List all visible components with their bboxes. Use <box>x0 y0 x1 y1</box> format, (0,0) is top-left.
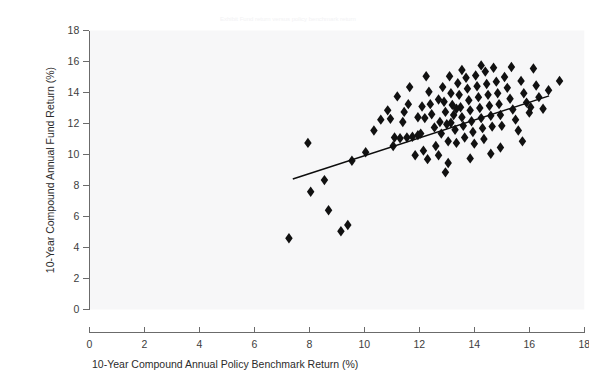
y-axis-title: 10-Year Compound Annual Fund Return (%) <box>44 67 56 273</box>
x-tick-label: 4 <box>196 338 202 350</box>
y-tick-label: 10 <box>68 148 80 160</box>
x-tick-label: 6 <box>251 338 257 350</box>
y-tick-label: 6 <box>73 210 79 222</box>
y-tick-label: 16 <box>68 55 80 67</box>
x-tick-label: 12 <box>413 338 425 350</box>
y-tick-label: 4 <box>73 241 79 253</box>
x-tick-label: 14 <box>468 338 480 350</box>
y-tick-label: 18 <box>68 24 80 36</box>
figure-caption-faint: Exhibit Fund return versus policy benchm… <box>220 16 356 22</box>
y-tick-label: 12 <box>68 117 80 129</box>
x-tick-label: 18 <box>578 338 589 350</box>
x-tick-label: 16 <box>523 338 535 350</box>
x-axis-title: 10-Year Compound Annual Policy Benchmark… <box>92 358 358 370</box>
chart-canvas: Exhibit Fund return versus policy benchm… <box>40 16 589 370</box>
y-tick-label: 8 <box>73 179 79 191</box>
x-tick-label: 2 <box>141 338 147 350</box>
x-tick-label: 8 <box>306 338 312 350</box>
y-tick-label: 14 <box>68 86 80 98</box>
x-tick-label: 0 <box>86 338 92 350</box>
y-tick-label: 2 <box>73 272 79 284</box>
x-tick-label: 10 <box>358 338 370 350</box>
plot-area-background <box>89 31 584 310</box>
y-tick-label: 0 <box>73 303 79 315</box>
scatter-chart-figure: Exhibit Fund return versus policy benchm… <box>40 16 589 370</box>
